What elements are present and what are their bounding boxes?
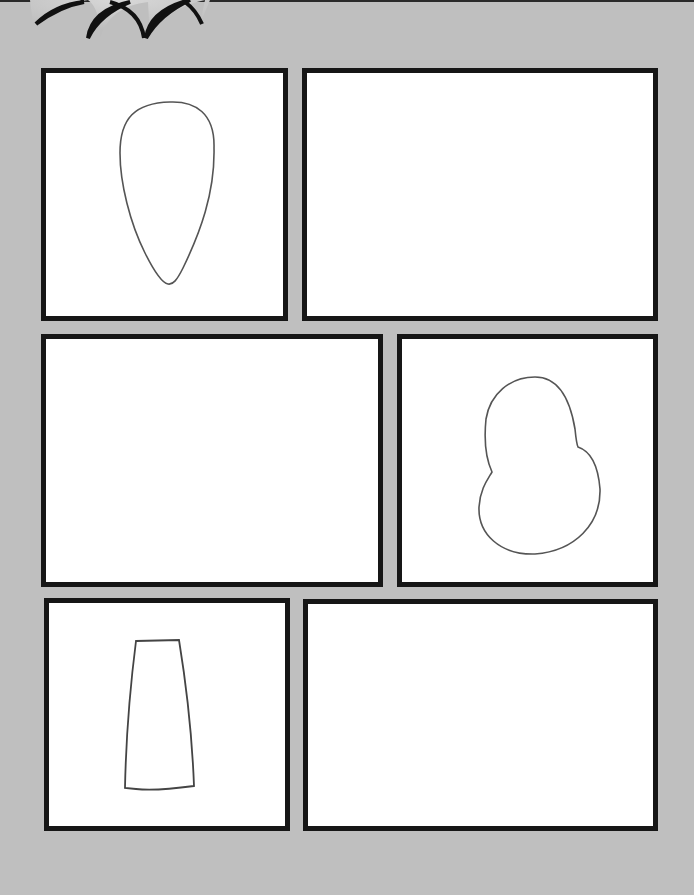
panel-1: Panel 1 (41, 68, 288, 321)
egg-shape-sketch (46, 73, 293, 326)
panel-4: Panel 4 (397, 334, 658, 587)
panel-6: Panel 6 (303, 599, 658, 831)
panel-2: Panel 2 (302, 68, 658, 321)
panel-3: Panel 3 (41, 334, 383, 587)
trapezoid-shape-sketch (49, 603, 295, 836)
bean-shape-sketch (402, 339, 663, 592)
panel-5: Panel 5 (44, 598, 290, 831)
starburst-icon (0, 0, 240, 45)
